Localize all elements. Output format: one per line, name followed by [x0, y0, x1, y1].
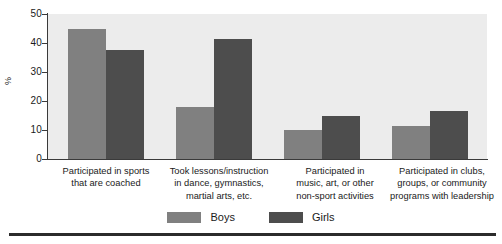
bar-boys-4: [392, 126, 430, 159]
y-tick-label-20: 20: [16, 96, 42, 106]
category-label-4: Participated in clubs, groups, or commun…: [382, 165, 502, 202]
category-label-4-line-1: Participated in clubs,: [382, 165, 502, 177]
category-label-3-line-2: music, art, or other: [277, 177, 393, 189]
category-label-1-line-1: Participated in sports: [48, 165, 164, 177]
y-tick-label-30: 30: [16, 67, 42, 77]
legend-item-girls: Girls: [269, 212, 335, 223]
category-label-2-line-3: martial arts, etc.: [156, 190, 282, 202]
legend-swatch-girls-icon: [269, 212, 303, 223]
category-label-1: Participated in sports that are coached: [48, 165, 164, 190]
y-tick-mark-20: [42, 101, 47, 102]
x-axis-line: [47, 159, 488, 160]
category-label-4-line-2: groups, or community: [382, 177, 502, 189]
category-label-3-line-3: non-sport activities: [277, 190, 393, 202]
y-tick-mark-50: [42, 14, 47, 15]
bar-boys-3: [284, 130, 322, 159]
category-label-2-line-2: in dance, gymnastics,: [156, 177, 282, 189]
bar-group-1: [58, 14, 158, 159]
bar-girls-2: [214, 39, 252, 159]
bar-girls-3: [322, 116, 360, 160]
bar-group-2: [166, 14, 266, 159]
y-tick-mark-0: [42, 159, 47, 160]
y-tick-mark-30: [42, 72, 47, 73]
category-label-3-line-1: Participated in: [277, 165, 393, 177]
legend-label-boys: Boys: [210, 212, 234, 223]
bar-girls-4: [430, 111, 468, 159]
y-tick-mark-10: [42, 130, 47, 131]
category-label-1-line-2: that are coached: [48, 177, 164, 189]
y-axis-title: %: [3, 71, 13, 91]
y-tick-mark-40: [42, 43, 47, 44]
bar-group-4: [382, 14, 482, 159]
y-tick-label-40: 40: [16, 38, 42, 48]
legend-swatch-boys-icon: [167, 212, 201, 223]
plot-area: [48, 14, 487, 159]
y-tick-label-10: 10: [16, 125, 42, 135]
y-tick-label-0: 0: [16, 154, 42, 164]
y-axis-tick-labels: 50 40 30 20 10 0: [8, 0, 42, 244]
bottom-divider-rule: [9, 232, 496, 236]
bar-boys-2: [176, 107, 214, 159]
category-label-4-line-3: programs with leadership: [382, 190, 502, 202]
bar-group-3: [274, 14, 374, 159]
y-tick-label-50: 50: [16, 9, 42, 19]
category-label-2-line-1: Took lessons/instruction: [156, 165, 282, 177]
bar-chart-figure: 50 40 30 20 10 0 %: [0, 0, 502, 244]
chart-legend: Boys Girls: [0, 212, 502, 223]
bar-boys-1: [68, 29, 106, 160]
legend-item-boys: Boys: [167, 212, 234, 223]
bar-girls-1: [106, 50, 144, 159]
category-label-3: Participated in music, art, or other non…: [277, 165, 393, 202]
category-label-2: Took lessons/instruction in dance, gymna…: [156, 165, 282, 202]
legend-label-girls: Girls: [312, 212, 335, 223]
